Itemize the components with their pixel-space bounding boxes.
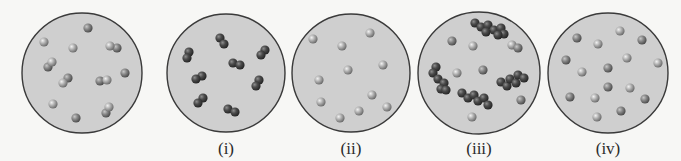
light-atom [622,53,631,62]
light-atom [343,65,352,74]
light-atom [590,93,599,102]
dark-atom [235,60,244,69]
dark-atom [193,98,202,107]
light-atom [653,58,662,67]
dark-atom [511,78,520,87]
light-atom [68,43,77,52]
medium-atom [120,68,129,77]
container-option-iii [418,12,540,134]
dark-atom [182,53,191,62]
light-atom [625,83,634,92]
light-atom [468,41,477,50]
light-atom [577,67,586,76]
medium-atom [513,43,522,52]
container-option-iv [548,13,668,133]
medium-atom [83,23,92,32]
light-atom [316,97,325,106]
medium-atom [71,113,80,122]
option-label-ii: (ii) [341,139,362,159]
light-atom [335,113,344,122]
medium-atom [572,33,581,42]
light-atom [104,102,113,111]
light-atom [58,78,67,87]
dark-atom [219,39,228,48]
medium-atom [565,92,574,101]
light-atom [452,68,461,77]
medium-atom [561,55,570,64]
dark-atom [191,74,200,83]
medium-atom [603,82,612,91]
container-option-i [167,14,285,132]
medium-atom [603,63,612,72]
light-atom [314,75,323,84]
container-reference [22,13,142,133]
light-atom [337,41,346,50]
light-atom [105,41,114,50]
dark-atom [441,85,450,94]
light-atom [615,26,624,35]
container-circle [548,13,668,133]
medium-atom [478,65,487,74]
light-atom [378,60,387,69]
option-label-iv: (iv) [596,139,621,159]
dark-atom [230,107,239,116]
light-atom [365,28,374,37]
dark-atom [481,27,490,36]
medium-atom [637,35,646,44]
container-option-ii [292,14,410,132]
particle-diagram-figure: (i) (ii) (iii) (iv) [0,0,681,161]
light-atom [308,34,317,43]
dark-atom [493,30,502,39]
medium-atom [640,94,649,103]
light-atom [467,112,476,121]
light-atom [47,57,56,66]
light-atom [354,106,363,115]
dark-atom [256,50,265,59]
light-atom [39,37,48,46]
dark-atom [251,81,260,90]
light-atom [48,99,57,108]
light-atom [593,39,602,48]
light-atom [102,75,111,84]
diagram-canvas [0,0,681,161]
option-label-i: (i) [218,139,234,159]
light-atom [382,102,391,111]
option-label-iii: (iii) [466,139,492,159]
medium-atom [447,36,456,45]
light-atom [592,112,601,121]
medium-atom [516,95,525,104]
dark-atom [483,100,492,109]
dark-atom [519,73,528,82]
light-atom [367,90,376,99]
medium-atom [616,106,625,115]
container-circle [167,14,285,132]
